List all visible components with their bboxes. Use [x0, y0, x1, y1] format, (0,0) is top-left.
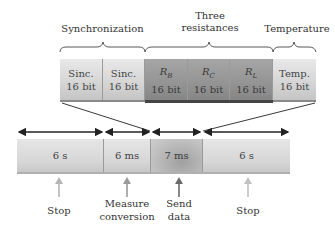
- field-name: Temp.: [279, 67, 310, 80]
- label-line2: conversion: [92, 210, 162, 223]
- field-bits: 16 bit: [194, 83, 224, 96]
- label-line2: data: [159, 210, 199, 223]
- label-line1: Stop: [218, 204, 278, 217]
- field-bits: 16 bit: [236, 83, 266, 96]
- duration-label: 7 ms: [164, 149, 188, 162]
- label-line1: Measure: [92, 197, 162, 210]
- up-arrow-send-data: [175, 177, 183, 197]
- field-bits: 16 bit: [280, 80, 310, 93]
- label-line1: Stop: [29, 204, 89, 217]
- field-bits: 16 bit: [66, 80, 96, 93]
- field-name: RB: [160, 65, 173, 83]
- duration-label: 6 ms: [115, 149, 139, 162]
- brace-three-resistances: [145, 42, 273, 52]
- field-r-b: RB 16 bit: [145, 59, 188, 101]
- label-stop-1: Stop: [29, 204, 89, 217]
- packet-shadow-light: [60, 100, 145, 102]
- field-r-l: RL 16 bit: [230, 59, 273, 101]
- duration-label: 6 s: [53, 149, 68, 162]
- packet-shadow: [145, 100, 273, 103]
- label-stop-2: Stop: [218, 204, 278, 217]
- field-bits: 16 bit: [151, 83, 181, 96]
- timeline-shadow: [17, 172, 290, 174]
- field-sinc-2: Sinc. 16 bit: [103, 59, 145, 101]
- timeline-stop-1: 6 s: [17, 139, 104, 172]
- brace-synchronization: [60, 42, 145, 52]
- up-arrow-stop-2: [244, 177, 252, 197]
- expand-line-left: [62, 103, 150, 131]
- field-r-c: RC 16 bit: [188, 59, 230, 101]
- up-arrow-measure-conversion: [123, 177, 131, 197]
- field-temp: Temp. 16 bit: [273, 59, 316, 101]
- label-measure-conversion: Measure conversion: [92, 197, 162, 223]
- packet-shadow-temp: [273, 100, 316, 102]
- label-line1: Send: [159, 197, 199, 210]
- field-bits: 16 bit: [109, 80, 139, 93]
- label-send-data: Send data: [159, 197, 199, 223]
- expand-line-right: [203, 103, 315, 131]
- field-sinc-1: Sinc. 16 bit: [60, 59, 103, 101]
- timeline-measure-conversion: 6 ms: [104, 139, 151, 172]
- up-arrow-stop-1: [55, 177, 63, 197]
- field-name: RC: [202, 65, 215, 83]
- timeline-stop-2: 6 s: [203, 139, 290, 172]
- timeline-send-data: 7 ms: [151, 139, 203, 172]
- brace-temperature: [273, 42, 316, 52]
- field-name: Sinc.: [68, 67, 93, 80]
- duration-label: 6 s: [239, 149, 254, 162]
- field-name: RL: [245, 65, 257, 83]
- field-name: Sinc.: [111, 67, 136, 80]
